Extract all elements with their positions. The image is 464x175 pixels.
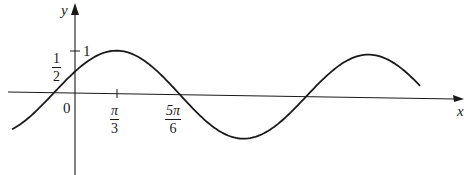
frac-denominator: 2 xyxy=(52,68,61,84)
x-tick-label-5pi-6: 5π 6 xyxy=(165,104,181,136)
y-tick-label-half: 1 2 xyxy=(52,52,61,84)
frac-numerator: 5π xyxy=(165,104,181,120)
sine-graph xyxy=(0,0,464,175)
frac-numerator: 1 xyxy=(52,52,61,68)
frac-denominator: 3 xyxy=(110,120,119,136)
x-tick-label-pi-3: π 3 xyxy=(110,104,119,136)
y-axis-arrow-icon xyxy=(71,3,79,15)
sine-curve xyxy=(12,51,420,139)
frac-denominator: 6 xyxy=(165,120,181,136)
x-axis-arrow-icon xyxy=(453,95,464,102)
frac-numerator: π xyxy=(110,104,119,120)
origin-label: 0 xyxy=(63,101,71,116)
x-axis-label: x xyxy=(457,104,464,119)
y-axis-label: y xyxy=(61,3,68,18)
y-tick-label-1: 1 xyxy=(83,44,91,59)
